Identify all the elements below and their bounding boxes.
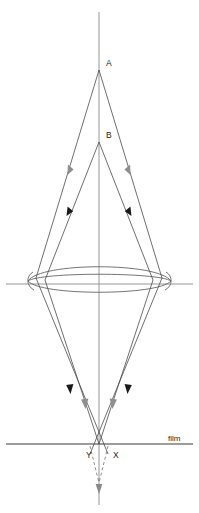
diagram-canvas: A B X Y film bbox=[0, 0, 199, 513]
optics-ray-diagram: A B X Y film bbox=[0, 0, 199, 513]
label-image-x: X bbox=[113, 450, 119, 460]
optical-axis-arrowhead bbox=[96, 484, 103, 494]
label-point-b: B bbox=[106, 130, 112, 140]
label-point-a: A bbox=[106, 58, 112, 68]
label-film: film bbox=[168, 434, 181, 443]
label-image-y: Y bbox=[86, 450, 92, 460]
